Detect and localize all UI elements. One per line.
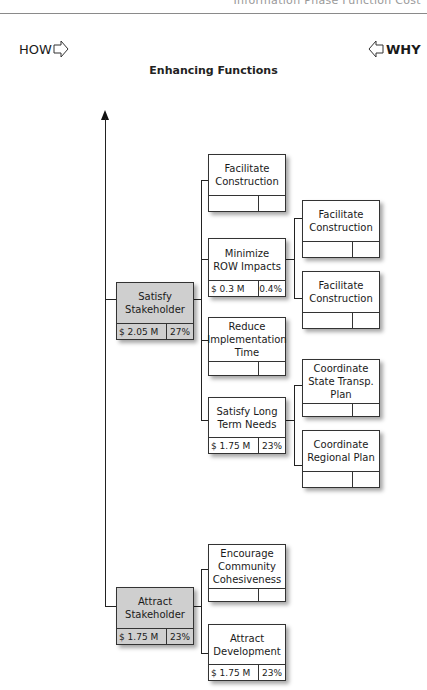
node-pct bbox=[353, 313, 379, 328]
connector bbox=[294, 385, 302, 386]
connector bbox=[294, 465, 302, 466]
node-cost: $ 2.05 M bbox=[117, 324, 167, 339]
connector bbox=[201, 180, 202, 420]
connector bbox=[201, 180, 208, 181]
node-cost: $ 0.3 M bbox=[209, 281, 259, 296]
left-arrow-icon bbox=[368, 40, 384, 58]
node-satisfy-stakeholder: Satisfy Stakeholder $ 2.05 M27% bbox=[116, 282, 194, 340]
node-cost bbox=[209, 196, 259, 211]
why-text: WHY bbox=[386, 42, 421, 57]
node-cost bbox=[209, 362, 259, 375]
node-pct bbox=[259, 196, 285, 211]
connector bbox=[201, 259, 208, 260]
node-pct: 23% bbox=[259, 665, 285, 680]
node-minimize-row-impacts: Minimize ROW Impacts $ 0.3 M0.4% bbox=[208, 238, 286, 297]
connector bbox=[294, 298, 302, 299]
node-encourage-community-cohesiveness: Encourage Community Cohesiveness bbox=[208, 544, 286, 602]
node-title: Minimize ROW Impacts bbox=[209, 239, 285, 280]
connector bbox=[201, 569, 202, 653]
connector bbox=[201, 569, 208, 570]
header-partial-title: Information Phase Function Cost bbox=[233, 0, 421, 7]
node-cost bbox=[303, 313, 353, 328]
node-title: Satisfy Stakeholder bbox=[117, 283, 193, 323]
diagram-subtitle: Enhancing Functions bbox=[0, 64, 427, 77]
node-cost: $ 1.75 M bbox=[117, 629, 167, 644]
node-reduce-implementation-time: Reduce Implementation Time bbox=[208, 317, 286, 376]
node-pct: 27% bbox=[167, 324, 193, 339]
connector bbox=[105, 299, 116, 300]
node-cost bbox=[303, 404, 353, 416]
node-cost bbox=[303, 242, 353, 257]
node-pct bbox=[259, 589, 285, 601]
node-title: Attract Development bbox=[209, 625, 285, 664]
node-facilitate-construction-3: Facilitate Construction bbox=[302, 271, 380, 329]
connector bbox=[294, 218, 295, 298]
node-pct bbox=[259, 362, 285, 375]
how-text: HOW bbox=[19, 42, 52, 57]
main-axis-line bbox=[105, 118, 106, 606]
node-title: Satisfy Long Term Needs bbox=[209, 398, 285, 437]
node-pct: 23% bbox=[167, 629, 193, 644]
node-pct: 0.4% bbox=[259, 281, 285, 296]
connector bbox=[294, 218, 302, 219]
connector bbox=[105, 606, 116, 607]
why-label: WHY bbox=[368, 40, 421, 58]
node-pct bbox=[353, 242, 379, 257]
node-satisfy-long-term-needs: Satisfy Long Term Needs $ 1.75 M23% bbox=[208, 397, 286, 454]
node-cost: $ 1.75 M bbox=[209, 438, 259, 453]
header-rule bbox=[0, 13, 427, 14]
node-title: Encourage Community Cohesiveness bbox=[209, 545, 285, 588]
node-coordinate-state-transp-plan: Coordinate State Transp. Plan bbox=[302, 359, 380, 417]
right-arrow-icon bbox=[53, 40, 69, 58]
node-pct bbox=[353, 404, 379, 416]
node-coordinate-regional-plan: Coordinate Regional Plan bbox=[302, 430, 380, 488]
node-facilitate-construction-2: Facilitate Construction bbox=[302, 200, 380, 258]
how-label: HOW bbox=[19, 40, 69, 58]
connector bbox=[294, 385, 295, 465]
node-title: Coordinate Regional Plan bbox=[303, 431, 379, 471]
node-cost: $ 1.75 M bbox=[209, 665, 259, 680]
node-title: Facilitate Construction bbox=[303, 201, 379, 241]
node-title: Attract Stakeholder bbox=[117, 588, 193, 628]
node-facilitate-construction: Facilitate Construction bbox=[208, 154, 286, 212]
node-pct: 23% bbox=[259, 438, 285, 453]
node-title: Coordinate State Transp. Plan bbox=[303, 360, 379, 403]
connector bbox=[201, 653, 208, 654]
connector bbox=[201, 420, 208, 421]
node-pct bbox=[353, 472, 379, 487]
node-cost bbox=[209, 589, 259, 601]
node-title: Facilitate Construction bbox=[303, 272, 379, 312]
node-title: Facilitate Construction bbox=[209, 155, 285, 195]
node-attract-development: Attract Development $ 1.75 M23% bbox=[208, 624, 286, 681]
node-attract-stakeholder: Attract Stakeholder $ 1.75 M23% bbox=[116, 587, 194, 645]
node-cost bbox=[303, 472, 353, 487]
node-title: Reduce Implementation Time bbox=[209, 318, 285, 361]
